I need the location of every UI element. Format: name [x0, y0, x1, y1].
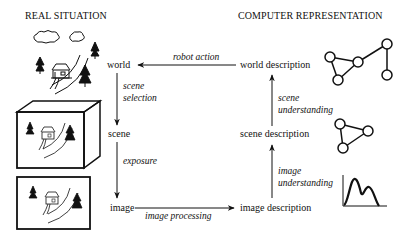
- landscape-sketch-icon: [34, 31, 99, 95]
- framed-image-icon: [17, 177, 90, 229]
- graph-3-nodes-icon: [335, 119, 373, 153]
- graph-5-nodes-icon: [325, 39, 392, 85]
- histogram-curve-icon: [343, 175, 387, 206]
- 3d-box-scene-icon: [17, 101, 100, 168]
